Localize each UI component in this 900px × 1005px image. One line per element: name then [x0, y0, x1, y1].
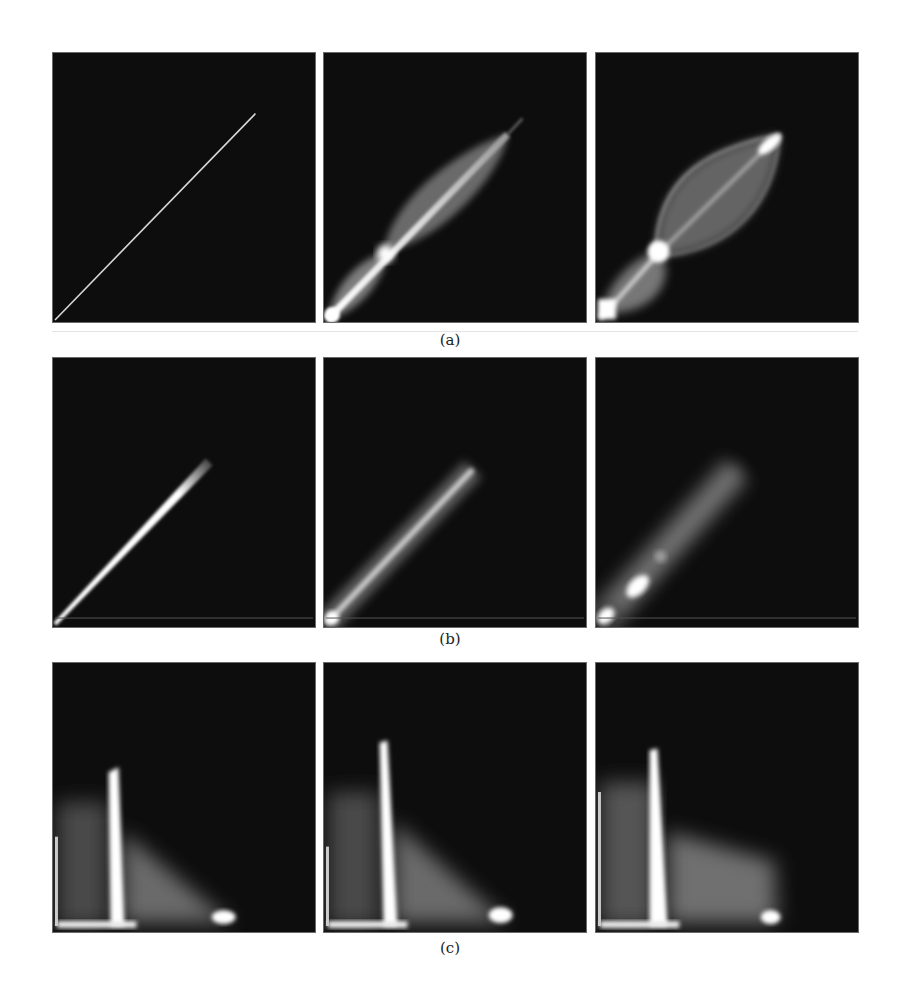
- panel-c1-image: [53, 663, 315, 932]
- row-label-c: (c): [0, 939, 900, 957]
- panel-c1: [52, 662, 316, 933]
- panel-a2-image: [324, 53, 586, 322]
- panel-b1-image: [53, 358, 315, 627]
- panel-c3: [595, 662, 859, 933]
- panel-a3-image: [596, 53, 858, 322]
- panel-a1-image: [53, 53, 315, 322]
- panel-b3: [595, 357, 859, 628]
- panel-a1: [52, 52, 316, 323]
- panel-b2-image: [324, 358, 586, 627]
- panel-c3-image: [596, 663, 858, 932]
- panel-b1: [52, 357, 316, 628]
- row-label-b: (b): [0, 630, 900, 648]
- panel-b3-image: [596, 358, 858, 627]
- panel-c2: [323, 662, 587, 933]
- panel-a3: [595, 52, 859, 323]
- panel-a2: [323, 52, 587, 323]
- row-label-a: (a): [0, 331, 900, 349]
- panel-b2: [323, 357, 587, 628]
- panel-c2-image: [324, 663, 586, 932]
